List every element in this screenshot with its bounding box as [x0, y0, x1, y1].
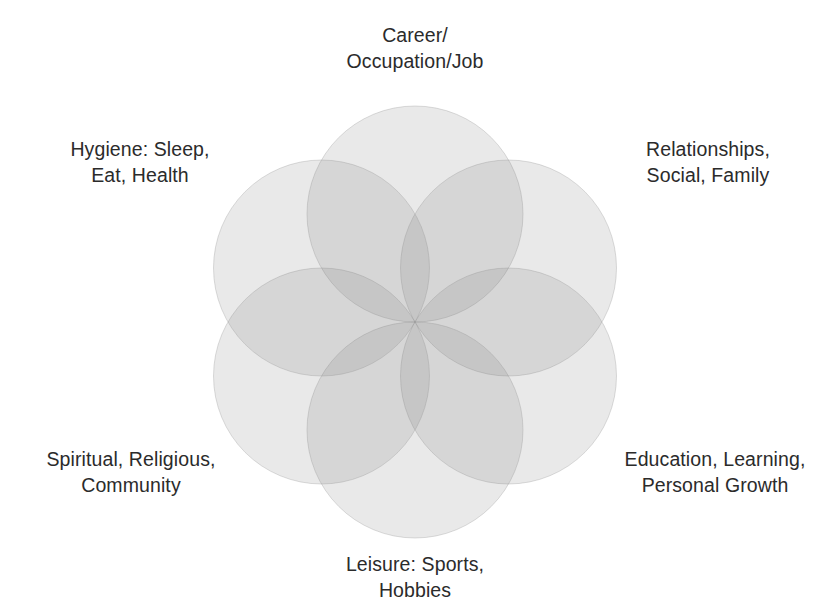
venn-label-career: Career/ Occupation/Job	[293, 22, 537, 74]
venn-label-leisure: Leisure: Sports, Hobbies	[293, 551, 537, 603]
venn-label-relationships: Relationships, Social, Family	[596, 136, 820, 188]
venn-rosette-graphic	[0, 0, 830, 610]
venn-circle-hygiene	[214, 160, 430, 376]
venn-circle-group	[214, 106, 617, 538]
venn-label-hygiene: Hygiene: Sleep, Eat, Health	[28, 136, 252, 188]
venn-label-education: Education, Learning, Personal Growth	[594, 446, 830, 498]
venn-label-spiritual: Spiritual, Religious, Community	[10, 446, 252, 498]
life-balance-venn-diagram: Career/ Occupation/Job Hygiene: Sleep, E…	[0, 0, 830, 610]
venn-svg-canvas	[0, 0, 830, 610]
